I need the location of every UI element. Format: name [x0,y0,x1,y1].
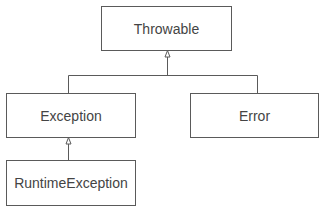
node-label: Error [239,108,270,124]
node-throwable: Throwable [101,6,232,51]
node-label: Throwable [134,21,199,37]
node-label: RuntimeException [14,175,128,191]
node-exception: Exception [6,93,136,138]
node-label: Exception [40,108,101,124]
node-runtime-exception: RuntimeException [6,160,136,206]
node-error: Error [190,93,319,138]
